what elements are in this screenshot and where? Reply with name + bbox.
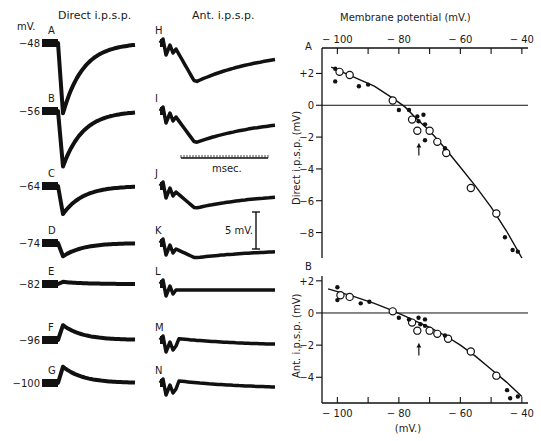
arrow-head-icon (416, 344, 421, 348)
filled-dot-point (510, 248, 514, 252)
open-circle-point (426, 327, 433, 334)
filled-dot-point (508, 396, 512, 400)
chart-a-title: Membrane potential (mV.) (340, 12, 471, 23)
trace-potential: −96 (19, 335, 40, 346)
antidromic-trace-h (160, 39, 275, 81)
baseline-block (42, 280, 58, 288)
filled-dot-point (407, 317, 411, 321)
filled-dot-point (333, 66, 337, 70)
antidromic-trace-l (160, 280, 275, 296)
open-circle-point (493, 372, 500, 379)
fitted-curve (328, 289, 522, 397)
trace-letter: K (155, 225, 162, 236)
trace-letter: N (155, 365, 162, 376)
trace-letter: B (48, 93, 55, 104)
x-tick-label: − 40 (510, 408, 534, 419)
filled-dot-point (418, 322, 422, 326)
filled-dot-point (335, 285, 339, 289)
trace-group: A−48B−56C−64D−74E−82F−96G−100HIJKLMN (13, 25, 275, 395)
stimulus-artifact (160, 239, 164, 247)
open-circle-point (346, 71, 353, 78)
trace-potential: −82 (19, 279, 40, 290)
open-circle-point (346, 293, 353, 300)
filled-dot-point (505, 388, 509, 392)
x-tick-label: − 60 (448, 34, 472, 45)
antidromic-trace-m (160, 336, 275, 352)
y-tick-label: −8 (299, 228, 314, 239)
chart-b: − 100− 80− 60− 40+20−2−4 (299, 276, 534, 419)
trace-letter: M (155, 322, 164, 333)
trace-potential: −100 (13, 378, 40, 389)
filled-dot-point (335, 298, 339, 302)
chart-a-panel-letter: A (305, 41, 312, 52)
baseline-block (42, 336, 58, 344)
trace-letter: J (154, 168, 158, 179)
antidromic-trace-n (160, 379, 275, 395)
antidromic-column-title: Ant. i.p.s.p. (192, 9, 255, 22)
antidromic-trace-i (160, 107, 275, 142)
chart-b-xlabel: (mV.) (395, 423, 421, 434)
y-tick-label: −6 (299, 196, 314, 207)
filled-dot-point (421, 113, 425, 117)
figure-canvas: Direct i.p.s.p. Ant. i.p.s.p. mV. A−48B−… (0, 0, 541, 441)
open-circle-point (467, 184, 474, 191)
y-tick-label: 0 (308, 100, 314, 111)
open-circle-point (414, 127, 421, 134)
x-tick-label: − 60 (448, 408, 472, 419)
y-tick-label: −4 (299, 164, 314, 175)
filled-dot-point (366, 82, 370, 86)
open-circle-point (434, 138, 441, 145)
filled-dot-point (357, 84, 361, 88)
filled-dot-point (397, 108, 401, 112)
open-circle-point (414, 327, 421, 334)
stimulus-artifact (160, 336, 164, 344)
filled-dot-point (423, 122, 427, 126)
trace-letter: D (48, 225, 56, 236)
stimulus-artifact (160, 280, 164, 288)
open-circle-point (389, 97, 396, 104)
x-tick-label: − 100 (322, 408, 353, 419)
open-circle-point (426, 127, 433, 134)
trace-letter: C (48, 168, 55, 179)
filled-dot-point (503, 235, 507, 239)
stimulus-artifact (160, 39, 164, 47)
y-tick-label: +2 (299, 276, 314, 287)
direct-trace-a (42, 43, 135, 113)
trace-potential: −56 (19, 106, 40, 117)
filled-dot-point (367, 300, 371, 304)
open-circle-point (493, 210, 500, 217)
chart-a-ylabel: Direct i.p.s.p. (mV) (291, 111, 302, 205)
y-tick-label: −2 (299, 132, 314, 143)
filled-dot-point (516, 249, 520, 253)
voltage-scale-bar (252, 212, 260, 249)
trace-letter: A (48, 25, 55, 36)
time-scale-label: msec. (212, 163, 242, 174)
baseline-block (42, 379, 58, 387)
trace-letter: G (48, 365, 56, 376)
y-tick-label: −4 (299, 372, 314, 383)
open-circle-point (467, 348, 474, 355)
filled-dot-point (416, 119, 420, 123)
open-circle-point (337, 292, 344, 299)
y-tick-label: 0 (308, 308, 314, 319)
filled-dot-point (423, 317, 427, 321)
baseline-block (42, 182, 58, 190)
y-tick-label: −2 (299, 340, 314, 351)
baseline-block (42, 39, 58, 47)
filled-dot-point (359, 301, 363, 305)
open-circle-point (434, 330, 441, 337)
filled-dot-point (415, 114, 419, 118)
y-tick-label: +2 (299, 68, 314, 79)
open-circle-point (408, 116, 415, 123)
units-label: mV. (17, 21, 35, 32)
trace-letter: F (48, 322, 54, 333)
trace-letter: E (48, 266, 54, 277)
fitted-curve (331, 67, 522, 258)
open-circle-point (443, 149, 450, 156)
open-circle-point (389, 308, 396, 315)
trace-letter: I (155, 93, 158, 104)
x-tick-label: − 80 (387, 408, 411, 419)
direct-column-title: Direct i.p.s.p. (58, 9, 131, 22)
chart-a: − 100− 80− 60− 40+20−2−4−6−8 (299, 34, 534, 258)
trace-potential: −48 (19, 38, 40, 49)
